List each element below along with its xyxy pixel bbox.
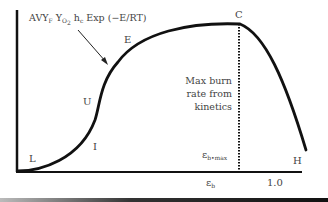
note-line: rate from bbox=[180, 87, 232, 100]
point-label-H: H bbox=[293, 156, 302, 166]
burn-rate-curve bbox=[18, 24, 306, 171]
point-label-E: E bbox=[124, 35, 131, 45]
formula-label: AVYF YO2 hc Exp (−E/RT) bbox=[29, 13, 147, 26]
note-line: Max burn bbox=[180, 74, 232, 87]
bottom-border bbox=[0, 198, 328, 202]
max-burn-note: Max burn rate from kinetics bbox=[180, 74, 232, 113]
note-line: kinetics bbox=[180, 100, 232, 113]
formula-arrow bbox=[78, 30, 106, 62]
point-label-C: C bbox=[235, 10, 243, 20]
burn-rate-diagram bbox=[0, 0, 328, 202]
x-axis-eps-b-label: εb bbox=[206, 178, 215, 189]
point-label-L: L bbox=[29, 154, 36, 164]
x-axis-one-label: 1.0 bbox=[267, 178, 283, 188]
point-label-U: U bbox=[83, 97, 91, 107]
eps-b-max-label: εb•max bbox=[202, 150, 227, 161]
point-label-I: I bbox=[93, 142, 97, 152]
